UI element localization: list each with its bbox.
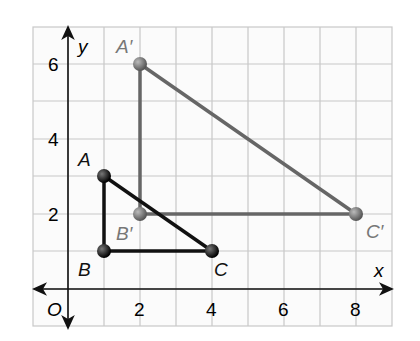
x-tick-6: 6 [278,299,289,320]
y-tick-4: 4 [48,129,59,150]
x-tick-4: 4 [206,299,217,320]
point-b [97,244,111,258]
x-tick-2: 2 [134,299,145,320]
y-axis-label: y [76,36,89,57]
x-axis-label: x [373,260,385,281]
point-c [205,244,219,258]
label-a: A [77,149,91,170]
label-b: B [78,259,91,280]
y-tick-6: 6 [48,54,59,75]
label-c-prime: C′ [366,221,385,242]
label-a-prime: A′ [115,36,134,57]
origin-label: O [47,299,62,320]
point-a [97,169,111,183]
coordinate-plane: 2 4 6 8 2 4 6 O x y A B C A′ B′ C′ [0,0,420,341]
label-b-prime: B′ [116,223,134,244]
y-tick-2: 2 [48,204,59,225]
point-b-prime [133,207,147,221]
x-tick-8: 8 [350,299,361,320]
point-c-prime [349,207,363,221]
point-a-prime [133,57,147,71]
label-c: C [214,259,228,280]
grid [33,27,392,326]
